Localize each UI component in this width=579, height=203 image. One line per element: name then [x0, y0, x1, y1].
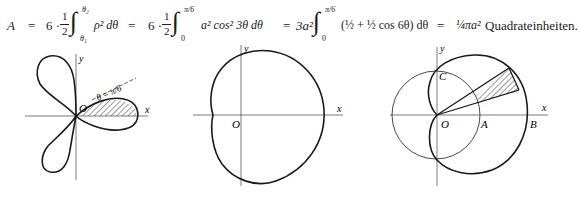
x-axis-label: x	[336, 103, 342, 114]
figure-cardioid-circle: O A B C x y	[390, 43, 548, 186]
figures-canvas: θ = π/6 O x y O x y O A B C x y	[0, 0, 579, 203]
rose-petal-lower-left	[42, 116, 76, 172]
x-axis-label: x	[144, 104, 150, 115]
origin-label: O	[441, 118, 449, 130]
point-a-label: A	[480, 118, 488, 130]
origin-label: O	[232, 118, 240, 130]
ray-lower	[437, 90, 519, 115]
point-b-label: B	[530, 118, 537, 130]
rose-petal-upper-left	[37, 56, 76, 116]
point-c-label: C	[439, 70, 447, 82]
origin-label: O	[79, 102, 87, 114]
y-axis-label: y	[78, 53, 84, 64]
y-axis-label: y	[439, 43, 445, 54]
x-axis-label: x	[541, 102, 547, 113]
figure-rose: θ = π/6 O x y	[25, 53, 150, 180]
figure-limacon: O x y	[193, 43, 343, 186]
y-axis-label: y	[243, 43, 249, 54]
limacon-curve	[211, 51, 324, 184]
